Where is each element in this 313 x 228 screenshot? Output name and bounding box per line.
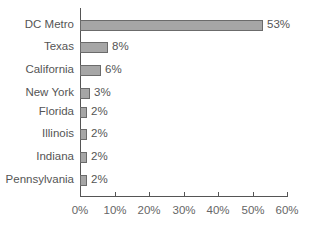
- y-axis-line: [80, 8, 81, 197]
- category-label: DC Metro: [25, 18, 74, 30]
- x-tick: [287, 192, 288, 197]
- value-label: 8%: [112, 40, 129, 52]
- x-tick: [149, 192, 150, 197]
- bar: [80, 88, 90, 99]
- x-tick-label: 10%: [103, 204, 126, 216]
- x-tick: [218, 192, 219, 197]
- category-label: Texas: [44, 40, 74, 52]
- bar: [80, 20, 263, 31]
- x-tick: [184, 192, 185, 197]
- bar: [80, 107, 87, 118]
- value-label: 2%: [91, 127, 108, 139]
- x-tick: [253, 192, 254, 197]
- category-label: Florida: [39, 105, 74, 117]
- bar-row-illinois: Illinois 2%: [0, 129, 313, 141]
- category-label: Pennsylvania: [6, 173, 74, 185]
- x-tick: [80, 192, 81, 197]
- category-label: Indiana: [36, 150, 74, 162]
- bar: [80, 65, 101, 76]
- value-label: 53%: [267, 18, 290, 30]
- value-label: 2%: [91, 173, 108, 185]
- value-label: 6%: [105, 63, 122, 75]
- category-label: New York: [25, 86, 74, 98]
- x-tick-label: 30%: [172, 204, 195, 216]
- bar-row-texas: Texas 8%: [0, 42, 313, 54]
- value-label: 2%: [91, 150, 108, 162]
- x-tick-label: 20%: [137, 204, 160, 216]
- x-tick-label: 60%: [275, 204, 298, 216]
- bar-row-florida: Florida 2%: [0, 107, 313, 119]
- bar: [80, 42, 108, 53]
- x-tick-label: 0%: [72, 204, 89, 216]
- bar-row-pennsylvania: Pennsylvania 2%: [0, 175, 313, 187]
- x-tick-label: 40%: [206, 204, 229, 216]
- bar: [80, 152, 87, 163]
- value-label: 2%: [91, 105, 108, 117]
- bar-chart: DC Metro 53% Texas 8% California 6% New …: [0, 0, 313, 228]
- value-label: 3%: [94, 86, 111, 98]
- bar-row-dc-metro: DC Metro 53%: [0, 20, 313, 32]
- category-label: California: [25, 63, 74, 75]
- bar: [80, 129, 87, 140]
- x-tick: [115, 192, 116, 197]
- bar-row-california: California 6%: [0, 65, 313, 77]
- bar-row-new-york: New York 3%: [0, 88, 313, 100]
- bar: [80, 175, 87, 186]
- category-label: Illinois: [42, 127, 74, 139]
- bar-row-indiana: Indiana 2%: [0, 152, 313, 164]
- x-tick-label: 50%: [241, 204, 264, 216]
